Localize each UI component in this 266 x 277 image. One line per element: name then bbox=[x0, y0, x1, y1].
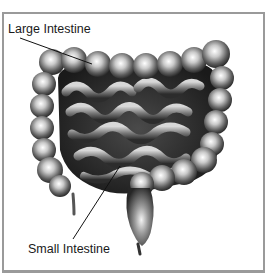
intestines-illustration bbox=[0, 0, 266, 277]
large-intestine-label: Large Intestine bbox=[8, 22, 91, 36]
small-intestine-label: Small Intestine bbox=[28, 242, 110, 256]
